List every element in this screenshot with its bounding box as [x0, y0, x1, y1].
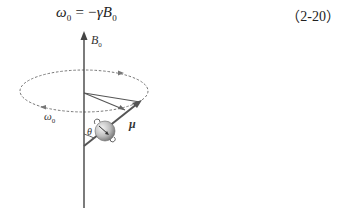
b0-arrow-icon [81, 31, 88, 40]
precession-arrow-top-icon [118, 71, 124, 76]
theta-label: θ [87, 126, 92, 137]
omega0-label: ω0 [44, 110, 56, 125]
b0-label: B0 [91, 33, 102, 49]
b0-axis [81, 31, 88, 208]
precession-diagram: B0 ω0 θ μ [0, 0, 352, 210]
precession-arrow-bottom-icon [40, 105, 46, 110]
mu-label: μ [128, 117, 136, 131]
